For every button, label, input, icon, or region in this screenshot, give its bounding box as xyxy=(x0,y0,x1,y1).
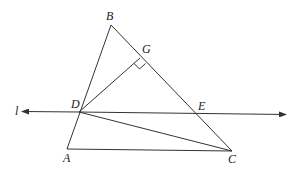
line-l xyxy=(79,112,286,115)
label-l: l xyxy=(15,104,19,118)
segment-dg xyxy=(79,58,140,112)
segment-ac xyxy=(67,149,232,151)
label-g: G xyxy=(142,42,151,56)
label-d: D xyxy=(70,97,80,111)
geometry-diagram: B G D E A C l xyxy=(0,0,301,170)
label-b: B xyxy=(106,9,114,23)
segment-dc xyxy=(79,112,232,151)
line-l-left xyxy=(22,112,79,113)
right-angle-marker xyxy=(134,64,146,70)
segment-ab xyxy=(67,25,111,149)
label-c: C xyxy=(228,152,237,166)
label-a: A xyxy=(62,151,71,165)
segment-bc xyxy=(111,25,232,151)
label-e: E xyxy=(197,99,206,113)
